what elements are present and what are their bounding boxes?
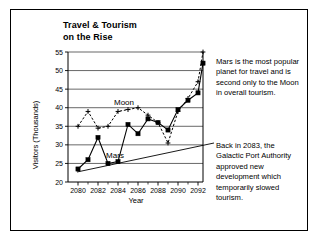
x-axis-title: Year xyxy=(128,196,144,205)
data-point-mars xyxy=(126,122,130,126)
x-tick-label: 2082 xyxy=(90,187,106,194)
y-tick-label: 45 xyxy=(55,86,63,93)
data-point-mars xyxy=(76,167,80,171)
series-label-mars: Mars xyxy=(106,151,124,160)
x-tick-label: 2086 xyxy=(130,187,146,194)
data-point-moon xyxy=(106,124,111,129)
y-tick-label: 35 xyxy=(55,123,63,130)
y-tick-label: 50 xyxy=(55,67,63,74)
y-tick-label: 40 xyxy=(55,104,63,111)
x-tick-label: 2088 xyxy=(150,187,166,194)
series-line-mars xyxy=(78,63,203,169)
chart-figure: Travel & Tourism on the Rise 20253035404… xyxy=(10,9,308,231)
annotation-galactic-port: Back in 2083, the Galactic Port Authorit… xyxy=(216,141,302,203)
axis-ticks xyxy=(65,52,198,186)
data-series xyxy=(76,50,206,171)
x-tick-label: 2080 xyxy=(70,187,86,194)
data-point-mars xyxy=(96,135,100,139)
gridlines xyxy=(68,52,203,163)
data-point-mars xyxy=(166,128,170,132)
data-point-moon xyxy=(201,50,206,55)
y-tick-label: 30 xyxy=(55,141,63,148)
data-point-moon xyxy=(86,109,91,114)
annotation-leader-line xyxy=(77,143,214,172)
data-point-moon xyxy=(136,105,141,110)
data-point-mars xyxy=(136,132,140,136)
x-tick-label: 2090 xyxy=(170,187,186,194)
series-label-moon: Moon xyxy=(114,98,134,107)
data-point-mars xyxy=(196,91,200,95)
y-axis-title-visitors: Visitors (Thousands) xyxy=(31,100,40,169)
x-tick-label: 2084 xyxy=(110,187,126,194)
y-tick-label: 20 xyxy=(55,179,63,186)
x-tick-label: 2092 xyxy=(190,187,206,194)
y-tick-label: 25 xyxy=(55,160,63,167)
y-tick-label: 55 xyxy=(55,49,63,56)
annotation-mars-popularity: Mars is the most popular planet for trav… xyxy=(216,57,302,99)
data-point-mars xyxy=(86,158,90,162)
